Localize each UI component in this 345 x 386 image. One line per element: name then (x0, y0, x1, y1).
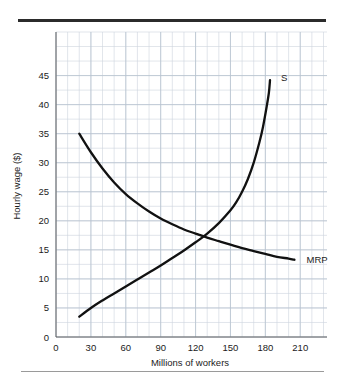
x-tick-label: 30 (86, 342, 97, 353)
y-tick-label: 10 (38, 273, 49, 284)
x-tick-label: 180 (257, 342, 273, 353)
curve-s (79, 80, 270, 316)
y-axis-title: Hourly wage ($) (11, 152, 22, 219)
x-tick-label: 0 (53, 342, 58, 353)
curve-label-mrp: MRP (307, 254, 328, 265)
x-tick-label: 210 (292, 342, 308, 353)
tick-labels: 0306090120150180210051015202530354045 (38, 70, 308, 353)
y-tick-label: 40 (38, 99, 49, 110)
y-tick-label: 25 (38, 186, 49, 197)
curve-label-s: S (281, 72, 287, 83)
curve-labels: MRPS (281, 72, 328, 265)
x-tick-label: 150 (223, 342, 239, 353)
y-tick-label: 0 (44, 332, 49, 343)
curve-mrp (79, 134, 294, 260)
y-tick-label: 20 (38, 215, 49, 226)
supply-mrp-chart: 0306090120150180210051015202530354045 MR… (0, 0, 345, 386)
y-tick-label: 35 (38, 128, 49, 139)
y-tick-label: 45 (38, 70, 49, 81)
figure-container: 0306090120150180210051015202530354045 MR… (0, 0, 345, 386)
y-tick-label: 15 (38, 244, 49, 255)
y-tick-label: 30 (38, 157, 49, 168)
x-tick-label: 120 (188, 342, 204, 353)
data-curves (79, 80, 294, 316)
x-tick-label: 60 (120, 342, 131, 353)
x-axis-title: Millions of workers (151, 357, 229, 368)
y-tick-label: 5 (44, 302, 49, 313)
x-tick-label: 90 (155, 342, 166, 353)
